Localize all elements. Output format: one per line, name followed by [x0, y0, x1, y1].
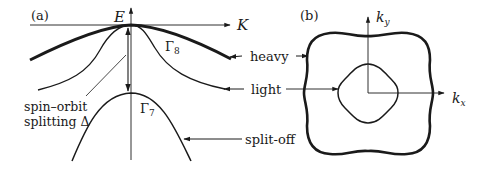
- panel-b-label: (b): [300, 8, 318, 23]
- panel-b: (b) kx ky: [286, 8, 466, 154]
- split-off-band: [72, 93, 191, 161]
- spin-orbit-label-line2: splitting Δ: [24, 114, 90, 129]
- band-structure-diagram: (a) K E Γ8 Γ7 spin–orbit splitting Δ hea…: [0, 0, 488, 169]
- heavy-hole-contour: [304, 33, 433, 155]
- heavy-label: heavy: [250, 49, 289, 64]
- gamma7-label: Γ7: [140, 101, 155, 118]
- k-axis-label: K: [236, 16, 249, 34]
- heavy-pointer-arrow: [230, 56, 242, 57]
- panel-a-label: (a): [31, 8, 49, 23]
- e-axis-label: E: [113, 8, 125, 26]
- ky-axis-label: ky: [376, 9, 390, 27]
- gamma8-label: Γ8: [165, 39, 180, 56]
- light-label: light: [251, 82, 282, 97]
- spin-orbit-label-line1: spin–orbit: [24, 99, 87, 114]
- light-hole-band: [38, 25, 225, 90]
- heavy-hole-band: [30, 25, 231, 60]
- split-off-label: split-off: [245, 132, 297, 147]
- panel-a: (a) K E Γ8 Γ7 spin–orbit splitting Δ hea…: [24, 8, 297, 161]
- kx-axis-label: kx: [452, 90, 466, 108]
